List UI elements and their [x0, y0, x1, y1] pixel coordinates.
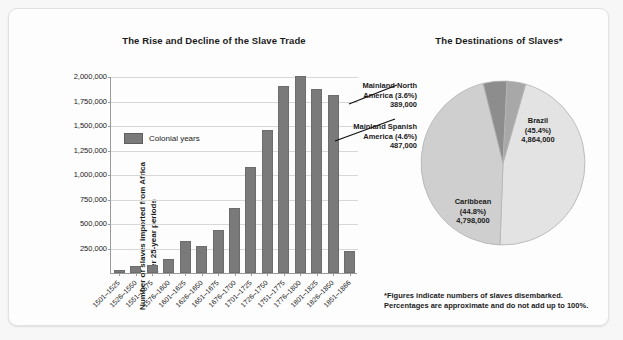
bar-chart-plot-area: Number of slaves imported from Africa pe… — [110, 77, 357, 274]
bar — [295, 76, 306, 273]
x-tick-mark — [152, 273, 153, 276]
pie-callout-mainland-spanish-america: Mainland Spanish America (4.6%) 487,000 — [309, 122, 417, 151]
pie-callout-mainland-north-america: Mainland North America (3.6%) 389,000 — [325, 81, 417, 110]
x-tick-mark — [333, 273, 334, 276]
y-tick-label: 1,500,000 — [74, 121, 107, 130]
bar — [196, 246, 207, 273]
pie-label-caribbean-line1: Caribbean — [455, 197, 492, 206]
x-tick-mark — [119, 273, 120, 276]
x-tick-mark — [218, 273, 219, 276]
x-tick-mark — [136, 273, 137, 276]
y-tick-label: 1,250,000 — [74, 146, 107, 155]
bar — [245, 167, 256, 273]
pie-label-brazil-line3: 4,864,000 — [521, 135, 554, 144]
x-tick-mark — [202, 273, 203, 276]
pie-label-caribbean-line3: 4,798,000 — [456, 216, 489, 225]
bar — [130, 266, 141, 273]
pie-label-caribbean: Caribbean (44.8%) 4,798,000 — [433, 197, 513, 226]
bar — [213, 230, 224, 273]
bar — [278, 86, 289, 273]
bar — [262, 130, 273, 273]
bar — [311, 89, 322, 273]
callout-mna-line3: 389,000 — [390, 100, 417, 109]
callout-msa-line3: 487,000 — [390, 141, 417, 150]
y-tick-label: 750,000 — [80, 195, 107, 204]
y-tick-label: 1,750,000 — [74, 97, 107, 106]
y-tick-label: 2,000,000 — [74, 72, 107, 81]
pie-label-brazil-line2: (45.4%) — [525, 126, 551, 135]
x-tick-mark — [169, 273, 170, 276]
callout-mna-line2: America (3.6%) — [363, 91, 417, 100]
x-tick-mark — [284, 273, 285, 276]
x-tick-mark — [185, 273, 186, 276]
bar — [180, 241, 191, 273]
x-tick-mark — [300, 273, 301, 276]
bar — [147, 265, 158, 273]
pie-label-brazil-line1: Brazil — [528, 116, 548, 125]
callout-msa-line1: Mainland Spanish — [353, 122, 417, 131]
bar — [163, 259, 174, 273]
x-tick-mark — [251, 273, 252, 276]
callout-msa-line2: America (4.6%) — [363, 132, 417, 141]
callout-mna-line1: Mainland North — [362, 81, 417, 90]
footnote-line1: *Figures indicate numbers of slaves dise… — [384, 291, 563, 300]
legend-label-colonial-years: Colonial years — [149, 134, 200, 143]
x-tick-mark — [235, 273, 236, 276]
bar — [344, 251, 355, 273]
legend-swatch-colonial-years — [124, 133, 143, 144]
x-tick-mark — [350, 273, 351, 276]
x-tick-mark — [267, 273, 268, 276]
pie-chart-title: The Destinations of Slaves* — [399, 35, 599, 46]
bar-chart-title: The Rise and Decline of the Slave Trade — [69, 35, 359, 46]
x-tick-mark — [317, 273, 318, 276]
footnote-line2: Percentages are approximate and do not a… — [384, 301, 588, 310]
pie-chart-footnote: *Figures indicate numbers of slaves dise… — [384, 291, 609, 311]
figure-frame: The Rise and Decline of the Slave Trade … — [8, 8, 609, 326]
bar-chart-legend: Colonial years — [124, 133, 200, 144]
screenshot-root: The Rise and Decline of the Slave Trade … — [0, 0, 623, 340]
y-tick-label: 1,000,000 — [74, 170, 107, 179]
y-tick-label: 250,000 — [80, 244, 107, 253]
pie-label-brazil: Brazil (45.4%) 4,864,000 — [502, 116, 574, 145]
y-tick-label: 500,000 — [80, 219, 107, 228]
bar-series — [111, 77, 358, 273]
pie-label-caribbean-line2: (44.8%) — [460, 207, 486, 216]
bar — [229, 208, 240, 273]
